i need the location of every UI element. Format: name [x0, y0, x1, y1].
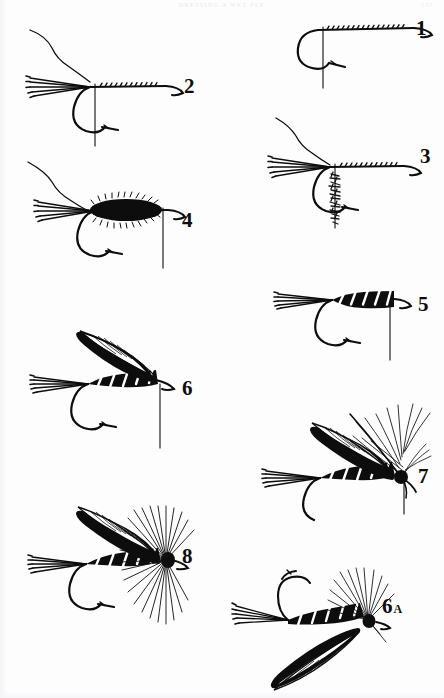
running-head-text: DRESSING A WET FLY — [179, 2, 265, 8]
page-folio: 135 — [421, 2, 434, 8]
figure-step-6a — [228, 566, 406, 694]
step-label-2-text: 2 — [184, 74, 195, 98]
step-label-1-text: 1 — [416, 16, 427, 40]
step-label-6: 6 — [182, 378, 193, 399]
step-label-6-text: 6 — [182, 376, 193, 400]
step-label-4-text: 4 — [182, 208, 193, 232]
figure-step-2 — [14, 26, 196, 150]
figure-step-8 — [24, 500, 206, 628]
step-label-2: 2 — [184, 76, 195, 97]
step-label-6a-suffix: A — [394, 602, 403, 616]
step-label-1: 1 — [416, 18, 427, 39]
figure-step-7 — [258, 378, 440, 516]
step-label-7-text: 7 — [418, 464, 429, 488]
step-label-6a-number: 6 — [382, 594, 393, 618]
step-label-4: 4 — [182, 210, 193, 231]
step-label-8-text: 8 — [182, 544, 193, 568]
step-label-5: 5 — [418, 294, 429, 315]
step-label-6a: 6A — [382, 596, 402, 617]
running-head: DRESSING A WET FLY 135 — [0, 0, 444, 9]
step-label-5-text: 5 — [418, 292, 429, 316]
figure-step-3 — [250, 116, 434, 230]
figure-step-5 — [266, 276, 438, 362]
step-label-7: 7 — [418, 466, 429, 487]
step-label-3: 3 — [420, 146, 431, 167]
scan-edge-shading-left — [0, 0, 7, 698]
step-label-8: 8 — [182, 546, 193, 567]
step-label-3-text: 3 — [420, 144, 431, 168]
illustration-page: DRESSING A WET FLY 135 — [0, 0, 444, 698]
figure-step-6 — [24, 322, 206, 450]
